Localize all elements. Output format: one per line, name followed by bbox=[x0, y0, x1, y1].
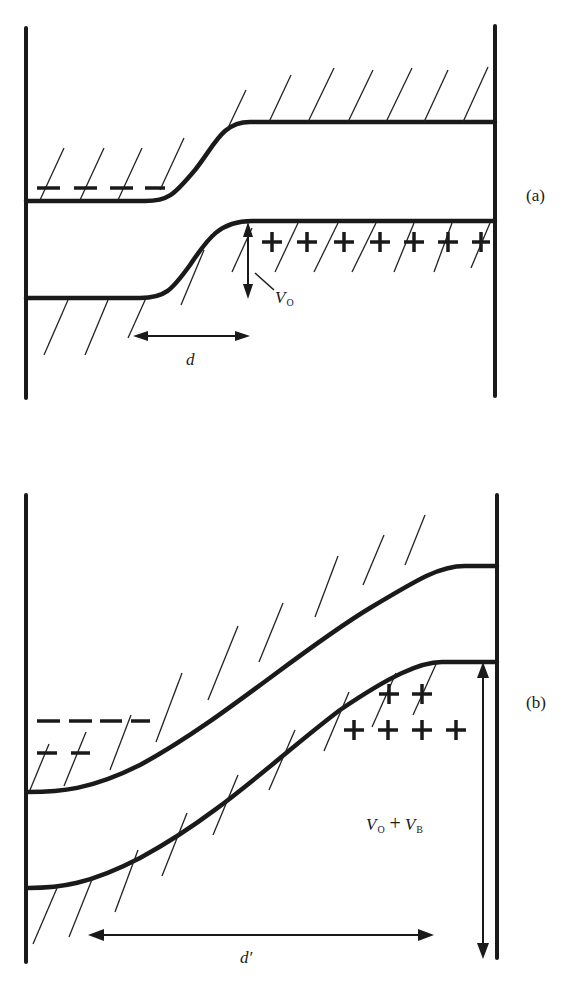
potential-arrow-a bbox=[243, 222, 274, 299]
hatching-upper-b bbox=[30, 515, 425, 790]
width-arrow-b bbox=[88, 929, 434, 941]
panel-label-b: (b) bbox=[526, 693, 546, 713]
upper-band-b bbox=[28, 566, 497, 792]
potential-label-a: VO bbox=[275, 288, 294, 308]
potential-label-b: VO + VB bbox=[366, 812, 423, 835]
width-label-a: d bbox=[186, 350, 195, 370]
positive-charges-b bbox=[344, 684, 466, 740]
positive-charges-a bbox=[262, 232, 490, 252]
width-arrow-a bbox=[133, 331, 250, 341]
hatching-upper-a bbox=[40, 67, 488, 200]
negative-charges-b bbox=[37, 721, 150, 753]
lower-band-b bbox=[28, 662, 497, 888]
lower-band-a bbox=[26, 221, 495, 298]
panel-b bbox=[26, 495, 497, 962]
potential-arrow-b bbox=[477, 662, 489, 959]
panel-label-a: (a) bbox=[526, 186, 545, 206]
width-label-b: d′ bbox=[240, 948, 252, 968]
band-diagram bbox=[0, 0, 573, 988]
panel-a bbox=[26, 26, 495, 398]
